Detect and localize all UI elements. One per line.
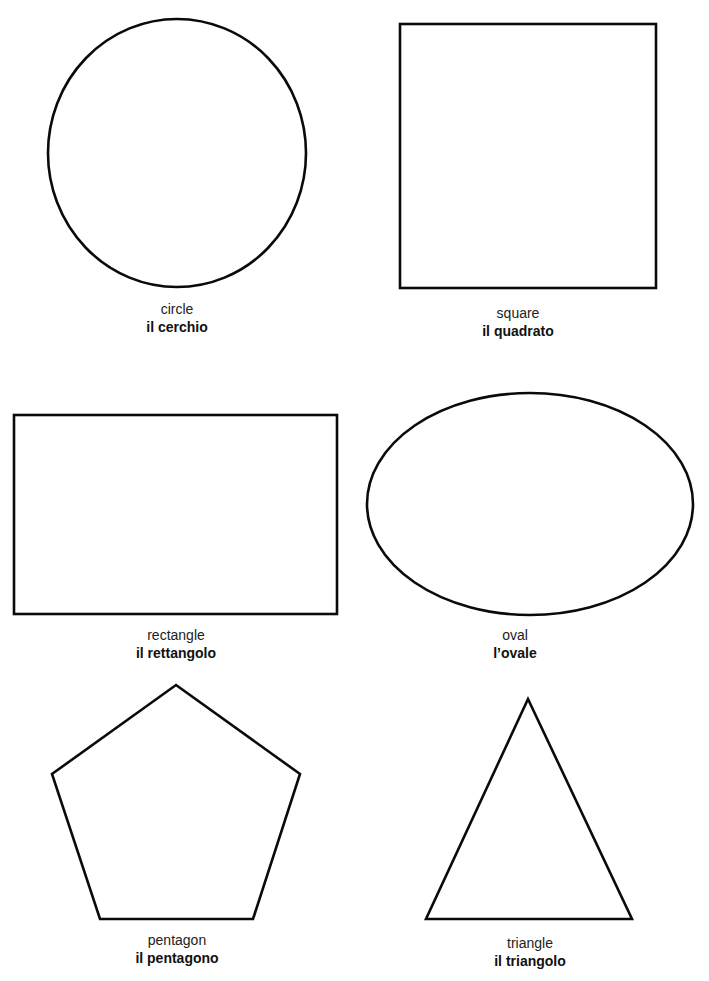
shapes-canvas: [0, 0, 709, 981]
rectangle-shape: [14, 415, 337, 614]
square-english-label: square: [398, 304, 638, 322]
square-shape: [400, 24, 656, 288]
square-caption: square il quadrato: [398, 304, 638, 340]
triangle-caption: triangle il triangolo: [410, 934, 650, 970]
circle-italian-label: il cerchio: [57, 318, 297, 336]
rectangle-italian-label: il rettangolo: [56, 644, 296, 662]
square-italian-label: il quadrato: [398, 322, 638, 340]
circle-english-label: circle: [57, 300, 297, 318]
triangle-italian-label: il triangolo: [410, 952, 650, 970]
triangle-english-label: triangle: [410, 934, 650, 952]
triangle-shape: [426, 699, 632, 919]
pentagon-caption: pentagon il pentagono: [57, 931, 297, 967]
circle-shape: [48, 19, 306, 287]
pentagon-shape: [52, 685, 300, 919]
oval-shape: [367, 393, 693, 615]
oval-italian-label: l’ovale: [395, 644, 635, 662]
oval-caption: oval l’ovale: [395, 626, 635, 662]
pentagon-italian-label: il pentagono: [57, 949, 297, 967]
oval-english-label: oval: [395, 626, 635, 644]
rectangle-english-label: rectangle: [56, 626, 296, 644]
circle-caption: circle il cerchio: [57, 300, 297, 336]
pentagon-english-label: pentagon: [57, 931, 297, 949]
rectangle-caption: rectangle il rettangolo: [56, 626, 296, 662]
